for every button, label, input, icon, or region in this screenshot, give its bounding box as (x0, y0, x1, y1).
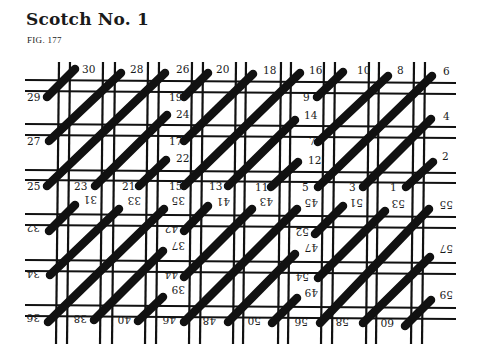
stitch-number-label-inverted: 41 (217, 196, 230, 208)
stitch-number-label: 2 (442, 150, 449, 162)
stitch-number-label-inverted: 32 (27, 222, 40, 234)
stitch-number-label-inverted: 40 (118, 314, 131, 326)
stitch-number-label-inverted: 42 (165, 223, 178, 235)
stitch-number-label: 10 (357, 64, 370, 76)
stitch-number-label-inverted: 55 (440, 199, 453, 211)
stitch-number-label-inverted: 44 (164, 269, 178, 281)
stitch-number-label-inverted: 48 (203, 315, 216, 327)
stitch-number-label-inverted: 35 (172, 195, 185, 207)
stitch-number-label-inverted: 33 (128, 195, 141, 207)
stitch-number-label-inverted: 47 (305, 242, 318, 254)
stitch-number-label: 27 (27, 135, 40, 147)
stitch-number-label: 16 (309, 64, 323, 76)
stitch-number-label: 18 (263, 64, 276, 76)
stitch-21-22 (139, 160, 166, 186)
stitch-number-label: 19 (169, 91, 182, 103)
stitch-number-label-inverted: 31 (84, 194, 97, 206)
stitch-number-label: 5 (302, 181, 309, 193)
stitch-number-label-inverted: 56 (294, 316, 308, 328)
stitch-number-label: 1 (390, 181, 397, 193)
stitch-number-label: 28 (130, 63, 143, 75)
stitch-number-label-inverted: 59 (440, 289, 453, 301)
stitch-32-31 (49, 205, 75, 231)
stitch-50-49 (272, 298, 297, 323)
stitch-number-label-inverted: 37 (172, 240, 185, 252)
grid-line-vertical (145, 62, 148, 344)
stitch-number-label-inverted: 54 (295, 271, 309, 283)
stitch-number-label: 29 (27, 91, 40, 103)
grid-line-vertical (189, 62, 192, 344)
grid-line-vertical (278, 62, 281, 344)
stitch-52-51 (315, 206, 343, 234)
stitch-11-12 (271, 162, 298, 187)
grid-line-vertical (233, 62, 236, 344)
stitch-number-label: 9 (303, 91, 310, 103)
stitch-number-label-inverted: 57 (440, 243, 453, 255)
stitch-diagram: 3028262018161086291992414427177221222523… (0, 0, 481, 360)
stitch-number-label: 4 (443, 110, 450, 122)
stitch-number-label-inverted: 46 (162, 314, 176, 326)
stitch-number-label-inverted: 34 (26, 268, 40, 280)
stitch-number-label: 6 (443, 65, 450, 77)
stitch-number-label-inverted: 39 (172, 284, 185, 296)
stitch-number-label: 7 (309, 135, 316, 147)
grid-line-vertical (411, 62, 414, 344)
stitch-number-label: 23 (74, 180, 87, 192)
stitch-number-label-inverted: 60 (381, 317, 394, 329)
stitch-number-label: 14 (304, 109, 318, 121)
stitch-number-label: 13 (209, 180, 222, 192)
stitch-number-label-inverted: 58 (336, 316, 349, 328)
stitch-number-label: 3 (349, 181, 356, 193)
stitch-number-label: 25 (27, 180, 40, 192)
stitch-number-label-inverted: 45 (305, 197, 318, 209)
stitch-number-label-inverted: 36 (26, 312, 40, 324)
stitches (47, 69, 433, 326)
stitch-number-label: 15 (169, 180, 182, 192)
stitch-number-label: 8 (397, 64, 404, 76)
stitch-number-label: 22 (176, 152, 189, 164)
grid-line-vertical (100, 62, 103, 344)
grid-line-vertical (56, 62, 59, 344)
grid-line-vertical (366, 62, 369, 344)
stitch-number-label: 17 (169, 135, 182, 147)
stitch-number-label-inverted: 43 (260, 196, 273, 208)
stitch-number-label-inverted: 52 (296, 226, 309, 238)
stitch-number-label-inverted: 51 (350, 197, 363, 209)
grid-line-vertical (376, 62, 379, 344)
stitch-number-label: 26 (176, 63, 190, 75)
stitch-number-label: 11 (255, 181, 268, 193)
grid-line-vertical (321, 62, 324, 344)
stitch-number-label: 20 (216, 63, 229, 75)
stitch-number-label-inverted: 50 (248, 315, 261, 327)
stitch-number-label: 12 (308, 154, 321, 166)
stitch-number-label: 21 (122, 180, 135, 192)
stitch-number-label: 30 (82, 63, 95, 75)
stitch-number-label: 24 (176, 108, 190, 120)
stitch-number-label-inverted: 49 (305, 287, 318, 299)
stitch-60-59 (405, 300, 431, 326)
stitch-number-label-inverted: 38 (74, 313, 87, 325)
stitch-number-label-inverted: 53 (392, 198, 405, 210)
stitch-19-20 (184, 73, 208, 97)
